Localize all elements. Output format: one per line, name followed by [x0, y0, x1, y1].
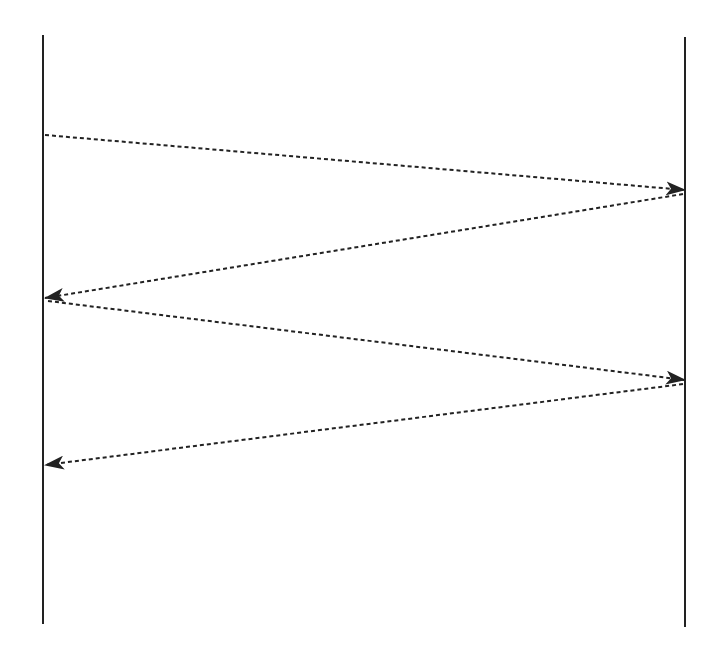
messages	[45, 135, 685, 465]
message-arrow-2	[45, 194, 683, 298]
message-arrow-4	[45, 384, 683, 465]
message-arrow-3	[48, 301, 685, 380]
sequence-diagram	[0, 0, 717, 655]
lifelines	[43, 35, 685, 627]
message-arrow-1	[45, 135, 685, 190]
